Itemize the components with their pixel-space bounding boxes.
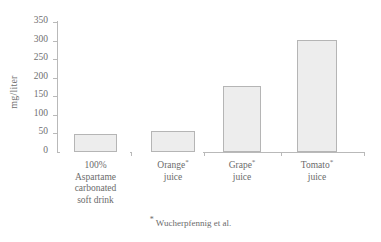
x-axis-tick-2 [281,152,282,156]
bar-0 [74,134,117,152]
footnote-superscript-icon: * [330,158,334,166]
bar-3 [297,40,337,152]
y-tick-label: 350 [34,15,48,25]
category-label-line: carbonated [53,183,139,195]
category-label-2: Grape*juice [207,160,277,183]
category-label-1: Orange*juice [138,160,208,183]
category-label-line: Grape* [207,160,277,172]
plot-area [57,22,365,152]
category-label-line: soft drink [53,195,139,207]
category-label-line: juice [279,172,355,184]
bar-2 [223,86,261,152]
category-label-0: 100%Aspartamecarbonatedsoft drink [53,160,139,206]
x-axis-segment-3 [205,152,365,153]
y-tick-label: 0 [43,145,48,155]
category-label-line: 100% [53,160,139,172]
y-tick-label: 300 [34,34,48,44]
category-label-line: Tomato* [279,160,355,172]
footnote-superscript-icon: * [252,158,256,166]
footnote-superscript-icon: * [185,158,189,166]
x-axis-tick-3 [364,152,365,156]
category-label-line: juice [138,172,208,184]
y-tick-label: 200 [34,71,48,81]
category-label-line: juice [207,172,277,184]
bar-1 [151,131,195,152]
category-label-3: Tomato*juice [279,160,355,183]
y-tick-label: 100 [34,108,48,118]
x-axis-segment-0 [58,152,60,153]
y-tick-label: 150 [34,89,48,99]
x-axis-tick-0 [131,152,132,156]
footnote-text: Wucherpfennig et al. [154,218,231,228]
bar-chart-figure: mg/liter 350300250200150100500 100%Aspar… [0,0,381,242]
x-axis-tick-1 [204,152,205,156]
chart-footnote: * Wucherpfennig et al. [0,218,381,228]
y-tick-label: 50 [39,126,49,136]
category-label-line: Aspartame [53,172,139,184]
category-label-line: Orange* [138,160,208,172]
y-axis-title: mg/liter [8,52,19,132]
y-tick-label: 250 [34,52,48,62]
